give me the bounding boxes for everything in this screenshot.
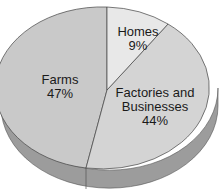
- label-homes: Homes9%: [113, 25, 163, 53]
- label-farms: Farms47%: [30, 73, 90, 101]
- label-factories-businesses: Factories andBusinesses44%: [110, 86, 200, 128]
